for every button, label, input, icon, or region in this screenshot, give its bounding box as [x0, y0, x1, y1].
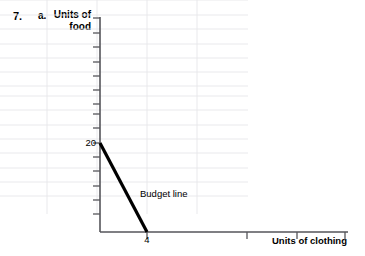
x-tick-label-4: 4 — [137, 234, 157, 245]
y-tick-label-20: 20 — [72, 137, 96, 148]
budget-line-label: Budget line — [140, 188, 188, 199]
x-axis-title: Units of clothing — [272, 235, 347, 246]
figure-container: 7. a. Units of food — [0, 0, 365, 256]
budget-line-plot — [100, 18, 348, 232]
